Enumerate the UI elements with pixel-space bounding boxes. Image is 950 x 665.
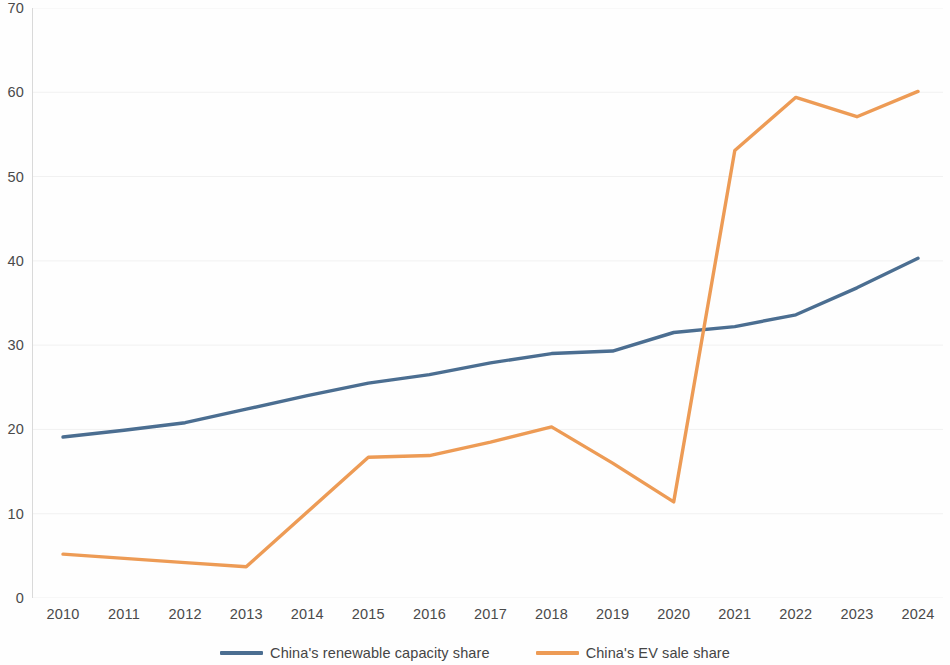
x-axis: 2010201120122013201420152016201720182019… [33, 606, 943, 630]
legend-label: China's EV sale share [586, 645, 730, 661]
series-line-2 [63, 91, 918, 566]
gridlines [33, 8, 943, 598]
x-tick-label: 2021 [718, 606, 751, 622]
y-tick-label: 0 [16, 590, 24, 606]
legend-swatch-icon [536, 651, 579, 655]
series-canvas [33, 8, 943, 598]
y-tick-label: 10 [7, 506, 24, 522]
x-tick-label: 2023 [840, 606, 873, 622]
y-tick-label: 60 [7, 84, 24, 100]
y-tick-label: 50 [7, 169, 24, 185]
legend-item-2[interactable]: China's EV sale share [536, 645, 730, 661]
x-tick-label: 2016 [413, 606, 446, 622]
y-tick-label: 70 [7, 0, 24, 16]
y-axis: 706050403020100 [0, 0, 33, 606]
x-tick-label: 2015 [352, 606, 385, 622]
x-tick-label: 2014 [291, 606, 324, 622]
line-chart: 706050403020100 201020112012201320142015… [0, 0, 950, 665]
x-tick-label: 2013 [230, 606, 263, 622]
chart-legend: China's renewable capacity shareChina's … [0, 641, 950, 665]
x-tick-label: 2017 [474, 606, 507, 622]
x-tick-label: 2022 [779, 606, 812, 622]
y-tick-label: 40 [7, 253, 24, 269]
x-tick-label: 2018 [535, 606, 568, 622]
x-tick-label: 2020 [657, 606, 690, 622]
legend-label: China's renewable capacity share [270, 645, 490, 661]
legend-item-1[interactable]: China's renewable capacity share [220, 645, 490, 661]
x-tick-label: 2012 [169, 606, 202, 622]
x-tick-label: 2024 [901, 606, 934, 622]
legend-swatch-icon [220, 651, 263, 655]
x-tick-label: 2011 [108, 606, 140, 622]
x-tick-label: 2010 [46, 606, 79, 622]
series-lines [63, 91, 918, 566]
y-tick-label: 20 [7, 421, 24, 437]
plot-area [33, 8, 943, 598]
x-tick-label: 2019 [596, 606, 629, 622]
y-tick-label: 30 [7, 337, 24, 353]
series-line-1 [63, 258, 918, 437]
